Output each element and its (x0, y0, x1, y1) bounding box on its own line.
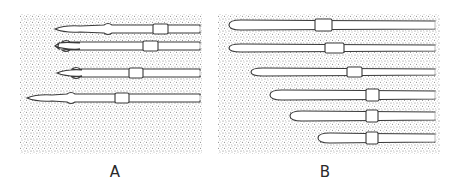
cell-outline (290, 111, 435, 121)
septum-box (366, 110, 378, 122)
elongated-cell (290, 110, 435, 122)
elongated-cell (270, 89, 435, 101)
septum-box (366, 89, 379, 101)
septum-box (115, 93, 129, 103)
panel-a (20, 14, 202, 154)
panel-b (218, 14, 440, 154)
septum-box (129, 68, 143, 78)
septum-box (325, 43, 344, 53)
elongated-cell (55, 41, 200, 52)
septum-box (366, 132, 378, 144)
elongated-cell (251, 67, 435, 77)
septum-box (143, 41, 158, 51)
cell-outline (270, 90, 435, 100)
septum-box (153, 24, 168, 34)
stippled-background (20, 14, 202, 154)
elongated-cell (229, 19, 435, 31)
septum-box (315, 19, 332, 31)
septum-box (347, 67, 362, 77)
elongated-cell (57, 68, 200, 79)
panel-a-label: A (100, 163, 130, 181)
panel-b-label: B (310, 163, 340, 181)
figure-canvas (0, 0, 455, 193)
elongated-cell (229, 43, 435, 53)
cell-outline (251, 68, 435, 76)
cell-outline (55, 41, 200, 52)
elongated-cell (318, 132, 435, 144)
